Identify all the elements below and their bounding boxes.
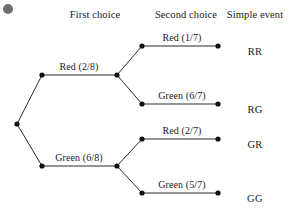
branch-label-first-red: Red (2/8)	[0, 61, 227, 72]
first-choice-green-elbow-node	[39, 163, 44, 168]
branch-label-first-green: Green (6/8)	[0, 152, 227, 163]
branch-label-second-green-1: Green (6/7)	[35, 90, 296, 101]
first-choice-red-elbow-node	[39, 72, 44, 77]
probability-tree-diagram: First choiceSecond choiceSimple event Re…	[0, 0, 295, 211]
column-header-3: Simple event	[108, 9, 296, 20]
branch-label-second-red-1: Red (1/7)	[35, 32, 296, 43]
simple-event-gg: GG	[108, 193, 296, 204]
first-choice-green-node	[114, 163, 119, 168]
simple-event-rr: RR	[108, 46, 296, 57]
root-node	[14, 121, 19, 126]
first-choice-red-node	[114, 72, 119, 77]
branch-label-second-red-2: Red (2/7)	[35, 125, 296, 136]
branch-label-second-green-2: Green (5/7)	[35, 179, 296, 190]
simple-event-gr: GR	[108, 139, 296, 150]
simple-event-rg: RG	[108, 104, 296, 115]
